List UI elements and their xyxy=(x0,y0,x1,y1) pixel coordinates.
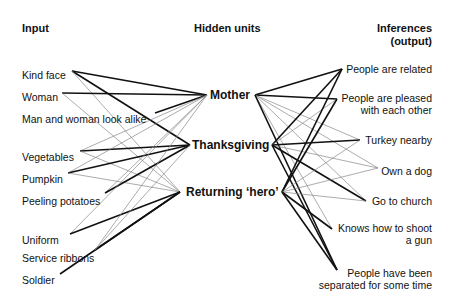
output-label-line: People are related xyxy=(346,63,432,75)
output-node-label: Turkey nearby xyxy=(365,134,432,146)
input-node-label: Uniform xyxy=(22,234,59,246)
output-node-label: People are related xyxy=(346,63,432,75)
input-node-label: Kind face xyxy=(22,69,66,81)
strong-connection-line xyxy=(282,192,337,270)
strong-connection-line xyxy=(282,192,332,229)
output-header-line2: (output) xyxy=(377,35,432,48)
output-label-line: Knows how to shoot xyxy=(338,222,432,234)
output-label-line: with each other xyxy=(342,104,433,116)
output-node-label: Knows how to shoota gun xyxy=(338,222,432,246)
weak-connection-line xyxy=(282,168,378,192)
strong-connection-line xyxy=(282,69,342,192)
output-node-label: People are pleasedwith each other xyxy=(342,92,433,116)
output-label-line: Own a dog xyxy=(381,165,432,177)
input-node-label: Man and woman look alike xyxy=(22,113,146,125)
strong-connection-line xyxy=(62,93,207,95)
hidden-units-header: Hidden units xyxy=(194,22,261,35)
input-node-label: Vegetables xyxy=(22,151,74,163)
output-label-line: a gun xyxy=(338,234,432,246)
hidden-unit-label: Thanksgiving xyxy=(192,138,269,152)
strong-connection-line xyxy=(272,140,360,145)
input-node-label: Service ribbons xyxy=(22,252,94,264)
output-node-label: Own a dog xyxy=(381,165,432,177)
input-node-label: Soldier xyxy=(22,274,55,286)
output-label-line: Go to church xyxy=(372,195,432,207)
output-label-line: separated for some time xyxy=(319,279,432,291)
output-label-line: Turkey nearby xyxy=(365,134,432,146)
output-node-label: People have beenseparated for some time xyxy=(319,267,432,291)
output-node-label: Go to church xyxy=(372,195,432,207)
output-label-line: People have been xyxy=(319,267,432,279)
strong-connection-line xyxy=(155,95,207,113)
input-node-label: Peeling potatoes xyxy=(22,195,100,207)
input-node-label: Pumpkin xyxy=(22,173,63,185)
weak-connection-line xyxy=(80,151,180,192)
output-header: Inferences (output) xyxy=(377,22,432,48)
output-label-line: People are pleased xyxy=(342,92,433,104)
strong-connection-line xyxy=(255,95,337,99)
hidden-unit-label: Mother xyxy=(210,88,250,102)
hidden-unit-label: Returning ‘hero’ xyxy=(186,185,279,199)
input-header: Input xyxy=(22,22,49,35)
output-header-line1: Inferences xyxy=(377,22,432,35)
input-node-label: Woman xyxy=(22,91,58,103)
